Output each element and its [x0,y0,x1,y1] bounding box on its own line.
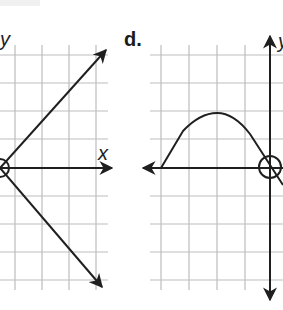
right-y-axis-label: y [278,30,283,53]
right-curve [161,113,283,185]
right-graph-plot [143,36,283,300]
figure: y x d. y [0,0,283,310]
top-edge-artifact [0,0,40,6]
left-x-axis-label: x [98,142,108,165]
panel-d-label: d. [124,28,142,51]
left-ray-up [0,50,106,168]
left-y-axis-label: y [0,28,10,51]
